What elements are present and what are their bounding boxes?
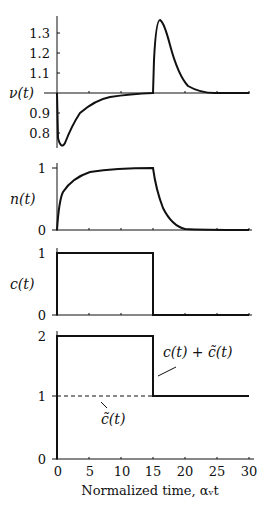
x-tick-10: 10 [114, 464, 131, 479]
tick-1.3: 1.3 [29, 26, 50, 41]
tick-1.2: 1.2 [29, 46, 50, 61]
annotation-c-tilde: c̃(t) [101, 411, 125, 427]
annotation-c-sum: c(t) + c̃(t) [163, 344, 232, 360]
figure: 1.3 1.2 1.1 0.9 0.8 ν(t) 1 0 n(t) 1 0 c(… [0, 0, 266, 510]
tick-0: 0 [38, 308, 46, 323]
tick-0.9: 0.9 [29, 106, 50, 121]
x-tick-30: 30 [241, 464, 258, 479]
x-tick-20: 20 [177, 464, 194, 479]
y-label-c: c(t) [10, 276, 34, 292]
tick-2: 2 [38, 329, 46, 344]
x-tick-0: 0 [54, 464, 62, 479]
panel-c-sum: 2 1 0 c(t) + c̃(t) c̃(t) [38, 329, 254, 467]
x-tick-5: 5 [86, 464, 94, 479]
annotation-leader-tilde [101, 402, 107, 408]
panel-n: 1 0 n(t) [10, 161, 252, 238]
panel-c: 1 0 c(t) [10, 246, 252, 323]
x-axis-labels: 0 5 10 15 20 25 30 Normalized time, αᵥt [54, 464, 257, 498]
c-curve [57, 253, 249, 315]
tick-1: 1 [38, 161, 46, 176]
x-axis-label: Normalized time, αᵥt [81, 483, 219, 498]
nu-curve [57, 20, 249, 146]
tick-1: 1 [38, 389, 46, 404]
tick-0.8: 0.8 [29, 126, 50, 141]
y-label-n: n(t) [10, 191, 36, 207]
n-curve [57, 168, 249, 230]
y-label-nu: ν(t) [9, 85, 34, 101]
tick-0: 0 [38, 452, 46, 467]
panel-nu: 1.3 1.2 1.1 0.9 0.8 ν(t) [9, 16, 250, 148]
tick-1.1: 1.1 [29, 66, 50, 81]
x-tick-25: 25 [209, 464, 226, 479]
x-tick-15: 15 [145, 464, 162, 479]
tick-1: 1 [38, 246, 46, 261]
annotation-leader-sum [158, 367, 176, 376]
tick-0: 0 [38, 223, 46, 238]
